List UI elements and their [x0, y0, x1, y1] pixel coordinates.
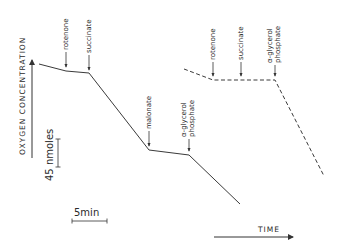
vertical-scale-bar: [56, 139, 61, 167]
horizontal-scale-label: 5min: [74, 207, 99, 218]
dashed-succinate-label: succinate: [237, 26, 245, 60]
solid-glycerol-label-1: α-glycerol: [180, 102, 188, 137]
dashed-trace: [184, 69, 324, 176]
solid-malonate-addition: malonate: [145, 96, 153, 146]
oxygen-trace-diagram: OXYGEN CONCENTRATION 45 nmoles 5min TIME…: [0, 0, 342, 250]
dashed-glycerol-label-1: α-glycerol: [266, 28, 274, 63]
horizontal-scale-bar: [72, 219, 107, 224]
solid-glycerol-label-2: phosphate: [188, 100, 196, 137]
x-axis-label: TIME: [257, 225, 280, 234]
solid-succinate-label: succinate: [85, 19, 93, 53]
dashed-glycerol-label-2: phosphate: [274, 26, 282, 63]
solid-malonate-label: malonate: [145, 96, 153, 129]
y-axis-label: OXYGEN CONCENTRATION: [18, 37, 27, 155]
dashed-rotenone-label: rotenone: [209, 28, 217, 60]
solid-trace: [39, 64, 240, 204]
vertical-scale-label: 45 nmoles: [44, 129, 55, 181]
dashed-rotenone-addition: rotenone: [209, 28, 217, 76]
solid-rotenone-addition: rotenone: [62, 18, 70, 67]
solid-succinate-addition: succinate: [85, 19, 93, 70]
dashed-glycerol-phosphate-addition: α-glycerol phosphate: [266, 26, 282, 76]
solid-glycerol-phosphate-addition: α-glycerol phosphate: [180, 100, 196, 151]
solid-rotenone-label: rotenone: [62, 18, 70, 50]
dashed-succinate-addition: succinate: [237, 26, 245, 76]
